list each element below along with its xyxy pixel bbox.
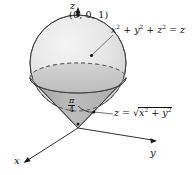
math-figure-sphere-cone: z y x (0, 0, 1) x2 + y2 + z2 = z z = √x2… (0, 0, 193, 175)
x-axis-label: x (14, 156, 20, 166)
sphere-eq-rhs: z (180, 24, 185, 35)
cone-eq-plus: + (151, 107, 159, 118)
sphere-equation-label: x2 + y2 + z2 = z (111, 25, 185, 35)
cone-half-angle-label: π 4 (68, 97, 75, 114)
x-axis (24, 128, 79, 163)
y-axis-label: y (150, 148, 156, 158)
cone-leader-line (94, 112, 113, 114)
sphere-eq-equals: = (169, 24, 177, 35)
y-axis (78, 128, 157, 143)
sphere-eq-z-exp: 2 (162, 24, 166, 30)
cone-eq-y-exp: 2 (168, 107, 172, 113)
cone-eq-x-exp: 2 (144, 107, 148, 113)
angle-denominator: 4 (68, 106, 75, 114)
cone-label-leader (92, 110, 113, 114)
y-axis-arrowhead (150, 138, 157, 143)
cone-eq-radicand: x2 + y2 (138, 107, 172, 118)
cone-eq-equals: = (122, 107, 130, 118)
cone-equation-label: z = √x2 + y2 (114, 107, 172, 118)
cone-leader-dot (92, 110, 95, 113)
y-axis-line (78, 128, 152, 140)
sphere-eq-y-exp: 2 (140, 24, 144, 30)
x-axis-arrowhead (24, 157, 31, 163)
sphere-leader-dot (90, 54, 93, 57)
top-point-label: (0, 0, 1) (69, 10, 108, 20)
origin-dot (77, 123, 80, 126)
sphere-eq-plus-2: + (146, 24, 154, 35)
cone-eq-lhs: z (114, 107, 119, 118)
sphere-eq-x-exp: 2 (116, 24, 120, 30)
sphere-eq-plus-1: + (123, 24, 131, 35)
x-axis-line (28, 128, 78, 160)
